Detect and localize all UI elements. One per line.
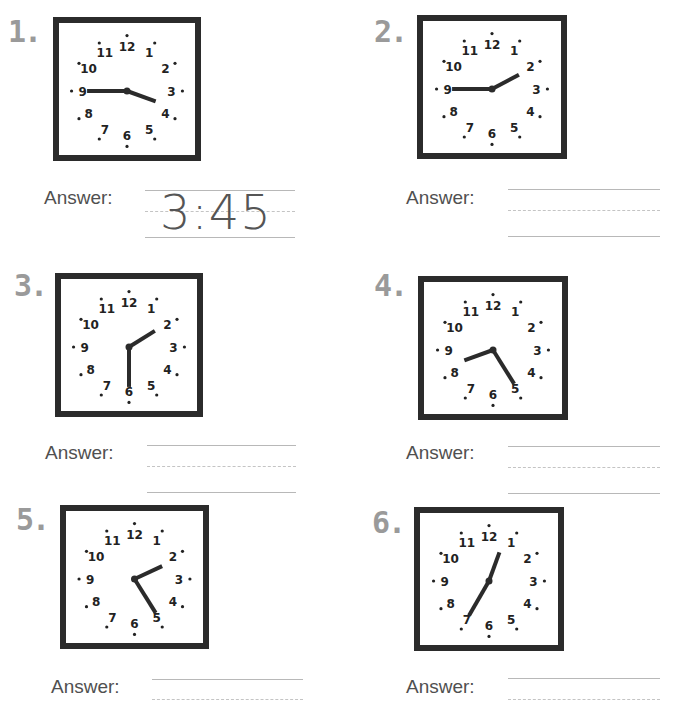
clock-numeral: 4 — [526, 105, 534, 119]
hour-tick-dot — [464, 396, 467, 399]
clock-numeral: 2 — [163, 318, 171, 332]
clock-numeral: 6 — [488, 127, 496, 141]
clock-numeral: 11 — [104, 534, 121, 548]
clock-numeral: 11 — [98, 302, 115, 316]
clock-face-1: 121234567891011 — [53, 17, 201, 161]
clock-numeral: 3 — [533, 344, 541, 358]
clock-numeral: 7 — [467, 382, 475, 396]
clock-numeral: 1 — [147, 302, 155, 316]
hour-tick-dot — [72, 345, 75, 348]
hour-tick-dot — [519, 396, 522, 399]
answer-guide-top-5[interactable] — [152, 679, 303, 680]
answer-guide-mid-2 — [508, 210, 660, 211]
hour-tick-dot — [543, 579, 546, 582]
answer-guide-top-4[interactable] — [508, 446, 660, 447]
clock-numeral: 6 — [125, 385, 133, 399]
minute-hand — [469, 581, 489, 616]
clock-numeral: 4 — [161, 107, 169, 121]
hour-tick-dot — [181, 605, 184, 608]
hour-tick-dot — [515, 531, 518, 534]
hour-tick-dot — [161, 625, 164, 628]
answer-label-3: Answer: — [45, 443, 114, 462]
clock-numeral: 12 — [485, 299, 502, 313]
hour-tick-dot — [518, 39, 521, 42]
hour-tick-dot — [519, 300, 522, 303]
clock-face-5: 121234567891011 — [60, 505, 209, 649]
clock-numeral: 12 — [119, 40, 136, 54]
hour-tick-dot — [460, 531, 463, 534]
clock-numeral: 4 — [169, 595, 177, 609]
hour-tick-dot — [183, 345, 186, 348]
hour-tick-dot — [133, 633, 136, 636]
hour-tick-dot — [153, 41, 156, 44]
minute-hand — [135, 579, 156, 613]
clock-face-2: 121234567891011 — [417, 15, 567, 159]
answer-label-1: Answer: — [44, 188, 113, 207]
question-number-1: 1. — [8, 17, 40, 47]
hour-tick-dot — [547, 348, 550, 351]
hour-hand — [135, 566, 163, 579]
clock-numeral: 1 — [511, 305, 519, 319]
clock-numeral: 7 — [103, 379, 111, 393]
hour-tick-dot — [188, 577, 191, 580]
hour-tick-dot — [173, 62, 176, 65]
clock-numeral: 10 — [80, 62, 97, 76]
clock-face-4: 121234567891011 — [418, 276, 568, 420]
clock-numeral: 12 — [481, 530, 498, 544]
clock-numeral: 4 — [523, 597, 531, 611]
clock-numeral: 5 — [145, 123, 153, 137]
clock-numeral: 2 — [527, 321, 535, 335]
hour-tick-dot — [539, 376, 542, 379]
hour-tick-dot — [432, 579, 435, 582]
center-pin — [490, 347, 497, 354]
hour-tick-dot — [175, 318, 178, 321]
clock-numeral: 9 — [78, 85, 86, 99]
clock-numeral: 12 — [126, 528, 143, 542]
question-number-5: 5. — [16, 505, 48, 535]
hour-tick-dot — [538, 115, 541, 118]
hour-tick-dot — [535, 607, 538, 610]
clock-numeral: 11 — [462, 305, 479, 319]
clock-numeral: 10 — [445, 60, 462, 74]
clock-numeral: 1 — [507, 536, 515, 550]
clock-numeral: 4 — [163, 363, 171, 377]
answer-value-1[interactable]: 3:45 — [160, 188, 272, 236]
clock-numeral: 3 — [167, 85, 175, 99]
hour-tick-dot — [77, 577, 80, 580]
clock-numeral: 7 — [101, 123, 109, 137]
hour-tick-dot — [546, 87, 549, 90]
clock-numeral: 9 — [80, 341, 88, 355]
answer-label-4: Answer: — [406, 443, 475, 462]
hour-tick-dot — [175, 373, 178, 376]
hour-tick-dot — [100, 393, 103, 396]
hour-hand — [464, 350, 493, 360]
answer-guide-top-2[interactable] — [508, 189, 660, 190]
hour-tick-dot — [490, 32, 493, 35]
hour-tick-dot — [127, 401, 130, 404]
clock-numeral: 6 — [130, 617, 138, 631]
clock-numeral: 4 — [527, 366, 535, 380]
answer-guide-bottom-4 — [508, 493, 660, 494]
question-number-4: 4. — [374, 271, 406, 301]
clock-numeral: 7 — [108, 611, 116, 625]
clock-numeral: 2 — [169, 550, 177, 564]
hour-tick-dot — [538, 60, 541, 63]
hour-tick-dot — [460, 627, 463, 630]
answer-guide-top-6[interactable] — [508, 678, 660, 679]
hour-tick-dot — [442, 115, 445, 118]
hour-hand — [127, 91, 156, 101]
hour-tick-dot — [79, 373, 82, 376]
clock-face-3: 121234567891011 — [55, 273, 203, 417]
hour-hand — [492, 75, 519, 89]
clock-numeral: 5 — [510, 121, 518, 135]
hour-hand — [489, 552, 499, 581]
hour-tick-dot — [85, 605, 88, 608]
clock-numeral: 1 — [510, 44, 518, 58]
clock-numeral: 11 — [96, 46, 113, 60]
clock-numeral: 11 — [458, 536, 475, 550]
clock-numeral: 6 — [489, 388, 497, 402]
answer-guide-top-3[interactable] — [147, 445, 296, 446]
clock-numeral: 12 — [484, 38, 501, 52]
hour-tick-dot — [100, 297, 103, 300]
clock-numeral: 10 — [442, 552, 459, 566]
